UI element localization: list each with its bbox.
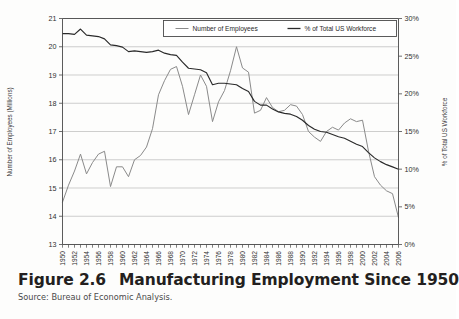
caption-block: Figure 2.6Manufacturing Employment Since… (18, 272, 448, 302)
x-tick-label: 1984 (263, 251, 270, 266)
x-tick-label: 1974 (203, 251, 210, 266)
y-tick-label-right: 25% (405, 52, 420, 61)
x-tick-label: 1972 (191, 251, 198, 266)
y-axis-left-title: Number of Employees (Millions) (6, 87, 14, 176)
series-line (63, 47, 399, 218)
x-tick-label: 2000 (359, 251, 366, 266)
x-tick-label: 1998 (347, 251, 354, 266)
y-tick-label-right: 0% (405, 240, 416, 249)
x-tick-label: 2006 (395, 251, 402, 266)
x-tick-label: 1962 (131, 251, 138, 266)
x-tick-label: 1966 (155, 251, 162, 266)
y-tick-label-left: 16 (49, 155, 57, 164)
x-tick-label: 1986 (275, 251, 282, 266)
x-tick-label: 1978 (227, 251, 234, 266)
y-tick-label-left: 13 (49, 240, 57, 249)
figure-source: Source: Bureau of Economic Analysis. (18, 292, 448, 302)
chart-plot-area: 131415161718192021 0%5%10%15%20%25%30% 1… (0, 0, 456, 268)
x-tick-label: 1990 (299, 251, 306, 266)
y-tick-label-right: 5% (405, 202, 416, 211)
x-tick-label: 2004 (383, 251, 390, 266)
y-axis-right-labels: 0%5%10%15%20%25%30% (405, 14, 420, 249)
y-tick-label-left: 14 (49, 212, 57, 221)
data-series-group (63, 29, 399, 218)
x-tick-label: 1958 (107, 251, 114, 266)
y-tick-label-right: 10% (405, 165, 420, 174)
x-tick-label: 1968 (167, 251, 174, 266)
figure-number: Figure 2.6 (18, 271, 106, 289)
y-tick-label-left: 21 (49, 14, 57, 23)
x-axis-labels: 1950195219541956195819601962196419661968… (59, 251, 402, 266)
x-tick-label: 1980 (239, 251, 246, 266)
x-tick-label: 1952 (71, 251, 78, 266)
gridlines-group (63, 19, 399, 245)
y-tick-label-left: 18 (49, 99, 57, 108)
x-tick-label: 1976 (215, 251, 222, 266)
x-tick-label: 1992 (311, 251, 318, 266)
figure-caption: Figure 2.6Manufacturing Employment Since… (18, 272, 448, 289)
y-tick-label-left: 15 (49, 184, 57, 193)
manufacturing-employment-chart: 131415161718192021 0%5%10%15%20%25%30% 1… (0, 0, 456, 268)
x-tick-label: 1996 (335, 251, 342, 266)
chart-legend: Number of Employees% of Total US Workfor… (164, 21, 397, 37)
y-axis-right-ticks (399, 19, 403, 245)
y-axis-left-ticks (59, 19, 63, 245)
x-tick-label: 1982 (251, 251, 258, 266)
series-line (63, 29, 399, 169)
x-tick-label: 1960 (119, 251, 126, 266)
y-tick-label-right: 15% (405, 127, 420, 136)
y-axis-left-labels: 131415161718192021 (49, 14, 57, 249)
y-tick-label-right: 20% (405, 89, 420, 98)
y-tick-label-left: 19 (49, 71, 57, 80)
x-tick-label: 1954 (83, 251, 90, 266)
x-tick-label: 1988 (287, 251, 294, 266)
figure-title: Manufacturing Employment Since 1950 (119, 271, 459, 289)
x-tick-label: 2002 (371, 251, 378, 266)
y-tick-label-right: 30% (405, 14, 420, 23)
y-axis-right-title: % of Total US Workforce (441, 97, 448, 166)
x-tick-label: 1970 (179, 251, 186, 266)
x-tick-label: 1994 (323, 251, 330, 266)
y-tick-label-left: 20 (49, 42, 57, 51)
x-axis-ticks (63, 245, 399, 248)
legend-label: % of Total US Workforce (305, 25, 377, 32)
x-tick-label: 1950 (59, 251, 66, 266)
legend-label: Number of Employees (193, 25, 259, 33)
x-tick-label: 1956 (95, 251, 102, 266)
x-tick-label: 1964 (143, 251, 150, 266)
y-tick-label-left: 17 (49, 127, 57, 136)
